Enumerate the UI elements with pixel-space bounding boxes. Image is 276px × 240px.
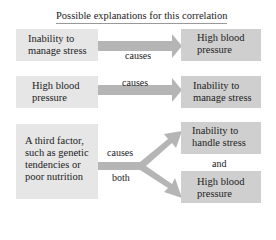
row2-left-box: High blood pressure bbox=[16, 76, 98, 108]
third-relation-bottom: both bbox=[112, 172, 130, 183]
arrow-fork bbox=[98, 131, 182, 198]
third-right-top-box: Inability to handle stress bbox=[181, 122, 261, 154]
row1-left-box: Inability to manage stress bbox=[16, 29, 98, 61]
row1-right-box: High blood pressure bbox=[181, 29, 261, 61]
third-factor-box: A third factor, such as genetic tendenci… bbox=[16, 124, 98, 199]
row2-right-box: Inability to manage stress bbox=[181, 76, 261, 108]
row1-relation: causes bbox=[125, 50, 151, 61]
third-connector: and bbox=[212, 158, 226, 169]
third-relation-top: causes bbox=[107, 147, 133, 158]
third-right-bottom-box: High blood pressure bbox=[181, 171, 261, 203]
row2-relation: causes bbox=[122, 77, 148, 88]
